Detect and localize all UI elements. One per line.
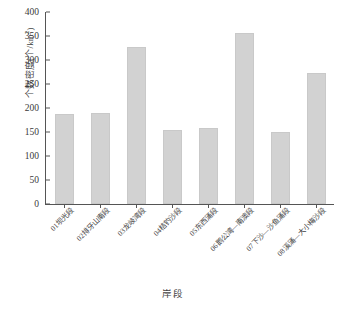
bar xyxy=(91,113,110,204)
bar-slot xyxy=(298,12,334,204)
y-axis-tick-label: 50 xyxy=(30,175,47,185)
plot-area: 050100150200250300350400 xyxy=(45,12,334,205)
x-axis-tick-label: 04桔钓沙段 xyxy=(152,206,184,238)
y-axis-tick-label: 300 xyxy=(25,55,46,65)
bar-slot xyxy=(118,12,154,204)
bar xyxy=(307,73,326,204)
x-axis-tick-label: 03龙岐湾段 xyxy=(116,206,148,238)
x-axis-title: 岸段 xyxy=(0,286,345,300)
x-axis-tick-label: 02排牙山南段 xyxy=(75,206,112,243)
y-axis-title: 个数密度(个/km2) xyxy=(21,0,36,143)
bar-series xyxy=(46,12,334,204)
y-axis-tick-label: 200 xyxy=(25,103,46,113)
bar-chart-figure: 个数密度(个/km2) 050100150200250300350400 01坝… xyxy=(0,0,345,311)
bar xyxy=(235,33,254,204)
bar xyxy=(127,47,146,204)
bar-slot xyxy=(82,12,118,204)
y-axis-tick-label: 150 xyxy=(25,127,46,137)
bar xyxy=(271,132,290,204)
y-axis-tick-label: 100 xyxy=(25,151,46,161)
bar xyxy=(163,130,182,204)
bar-slot xyxy=(46,12,82,204)
y-axis-title-tail: ) xyxy=(25,27,35,30)
bar-slot xyxy=(154,12,190,204)
x-axis-tick-label: 01坝光段 xyxy=(49,206,76,233)
bar-slot xyxy=(226,12,262,204)
bar-slot xyxy=(190,12,226,204)
bar xyxy=(55,114,74,204)
x-axis-category-labels: 01坝光段02排牙山南段03龙岐湾段04桔钓沙段05东西涌段06鹅公湾—南澳段0… xyxy=(45,206,333,276)
bar xyxy=(199,128,218,204)
y-axis-tick-label: 400 xyxy=(25,7,46,17)
y-axis-tick-label: 250 xyxy=(25,79,46,89)
y-axis-tick-label: 350 xyxy=(25,31,46,41)
x-axis-tick-label: 05东西涌段 xyxy=(188,206,220,238)
bar-slot xyxy=(262,12,298,204)
